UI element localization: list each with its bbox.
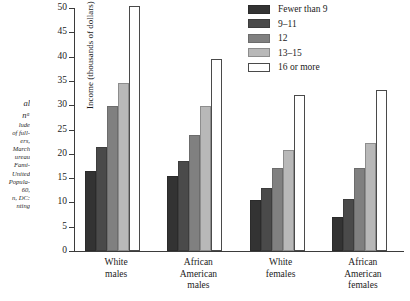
bar[interactable] (96, 147, 107, 251)
bar[interactable] (167, 176, 178, 251)
y-axis-tick (69, 251, 74, 252)
bar[interactable] (211, 59, 222, 251)
x-axis-category-line: African (308, 257, 410, 269)
y-axis-tick (69, 105, 74, 106)
caption-line: lude (0, 121, 30, 129)
bar[interactable] (118, 83, 129, 251)
bar[interactable] (365, 143, 376, 251)
x-axis-category-label: AfricanAmericanfemales (308, 257, 410, 292)
y-axis-tick-label: 10 (42, 196, 67, 206)
caption-line: nting (0, 202, 30, 210)
caption-line: United (0, 170, 30, 178)
bar[interactable] (129, 6, 140, 251)
y-axis-tick (69, 178, 74, 179)
caption-line: al (0, 98, 30, 109)
bar[interactable] (85, 171, 96, 251)
y-axis-tick-label: 45 (42, 26, 67, 36)
bar-group: AfricanAmericanfemales (332, 8, 394, 251)
caption-line: March (0, 145, 30, 153)
y-axis-tick (69, 227, 74, 228)
bar-group: Whitefemales (250, 8, 312, 251)
y-axis-tick-label: 5 (42, 221, 67, 231)
x-axis-category-line: males (143, 280, 253, 292)
x-axis-category-line: females (308, 280, 410, 292)
bar-group: Whitemales (85, 8, 147, 251)
caption-line: ureau (0, 153, 30, 161)
caption-line: of full- (0, 129, 30, 137)
y-axis-tick (69, 154, 74, 155)
y-axis-tick (69, 32, 74, 33)
y-axis-tick-label: 0 (42, 245, 67, 255)
bar-group-bars (250, 8, 312, 251)
y-axis-tick (69, 130, 74, 131)
bar[interactable] (343, 199, 354, 251)
y-axis-tick-label: 40 (42, 51, 67, 61)
bar[interactable] (283, 150, 294, 251)
bar[interactable] (250, 200, 261, 251)
y-axis-tick-label: 30 (42, 99, 67, 109)
plot-area: Income (thousands of dollars) 0510152025… (74, 8, 404, 252)
bar[interactable] (189, 135, 200, 251)
bar[interactable] (354, 168, 365, 251)
bar-groups: WhitemalesAfricanAmericanmalesWhitefemal… (75, 8, 404, 252)
figure-bar-chart: al nᵃ lude of full- ers, March ureau Fam… (0, 0, 410, 301)
bar[interactable] (332, 217, 343, 251)
bar[interactable] (200, 106, 211, 251)
caption-line: Fami- (0, 161, 30, 169)
bar[interactable] (376, 90, 387, 251)
y-axis-tick-label: 20 (42, 148, 67, 158)
y-axis-tick (69, 81, 74, 82)
bar-group-bars (85, 8, 147, 251)
y-axis-tick-label: 15 (42, 172, 67, 182)
caption-line: nᵃ (0, 109, 30, 121)
x-axis-category-line: American (308, 269, 410, 281)
bar[interactable] (107, 106, 118, 251)
bar-group-bars (167, 8, 229, 251)
y-axis-tick-label: 35 (42, 75, 67, 85)
bar[interactable] (261, 188, 272, 251)
caption-line: ers, (0, 137, 30, 145)
y-axis-tick (69, 57, 74, 58)
bar-group: AfricanAmericanmales (167, 8, 229, 251)
bar[interactable] (178, 161, 189, 251)
figure-caption-fragment: al nᵃ lude of full- ers, March ureau Fam… (0, 98, 30, 210)
y-axis-tick (69, 202, 74, 203)
bar[interactable] (272, 168, 283, 251)
y-axis-tick-label: 25 (42, 124, 67, 134)
bar[interactable] (294, 95, 305, 251)
bar-group-bars (332, 8, 394, 251)
y-axis-tick (69, 8, 74, 9)
y-axis-tick-label: 50 (42, 2, 67, 12)
caption-line: n, DC: (0, 194, 30, 202)
caption-line: Popula- (0, 178, 30, 186)
caption-line: 60, (0, 186, 30, 194)
